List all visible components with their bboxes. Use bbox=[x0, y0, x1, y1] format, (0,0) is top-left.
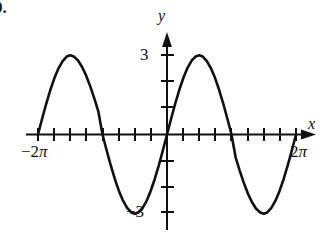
pi-symbol-right: π bbox=[299, 142, 308, 161]
x-tick-label-negative-2pi: −2π bbox=[21, 143, 48, 160]
x-tick-neg2pi-number: −2 bbox=[21, 142, 39, 161]
y-axis-label: y bbox=[158, 8, 165, 24]
x-axis-label: x bbox=[308, 116, 315, 132]
pi-symbol-left: π bbox=[39, 142, 48, 161]
y-tick-label-3: 3 bbox=[140, 46, 149, 63]
x-tick-2pi-number: 2 bbox=[290, 142, 299, 161]
y-tick-label-negative-3: −3 bbox=[126, 203, 144, 220]
trig-graph-figure bbox=[0, 0, 330, 240]
x-tick-label-2pi: 2π bbox=[290, 143, 307, 160]
y-axis-arrowhead bbox=[162, 32, 172, 47]
